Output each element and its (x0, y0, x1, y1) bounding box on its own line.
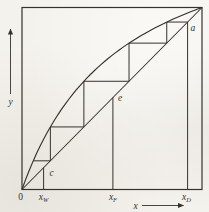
xd-tick-label: xD (181, 192, 191, 203)
textbook-figure: y x 0 xW xF xD a c e (0, 0, 209, 212)
diagram-canvas: y x 0 xW xF xD a c e (0, 0, 209, 212)
origin-label: 0 (18, 192, 23, 202)
y-axis-label: y (7, 97, 13, 107)
point-e-label: e (118, 93, 122, 103)
point-c-label: c (50, 168, 55, 178)
x-axis-label: x (132, 201, 138, 211)
diagonal-line (22, 8, 202, 190)
staircase-steps (33, 22, 187, 161)
xw-tick-label: xW (38, 192, 49, 203)
xf-tick-label: xF (108, 192, 118, 203)
point-a-label: a (191, 23, 196, 33)
